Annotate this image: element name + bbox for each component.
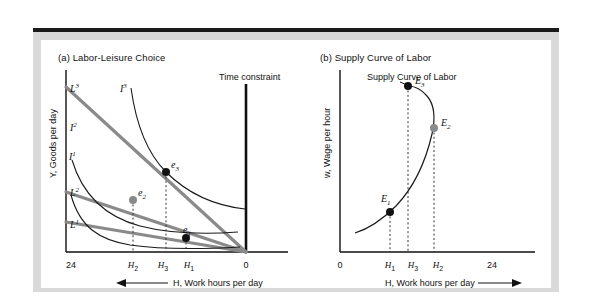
figure-root: (a) Labor-Leisure Choice (b) Supply Curv… xyxy=(0,0,592,304)
panel-b-xtick-24: 24 xyxy=(487,260,497,270)
label-indifference-i1: I1 xyxy=(68,150,76,162)
time-constraint-label: Time constraint xyxy=(219,72,281,82)
label-indifference-i3: I3 xyxy=(119,82,127,94)
equilibrium-point-E1 xyxy=(386,208,394,216)
label-e3: e3 xyxy=(171,159,179,173)
panel-b-xtick-h3: H3 xyxy=(407,260,419,272)
label-budget-l3: L3 xyxy=(69,82,80,94)
panel-a-xtick-24: 24 xyxy=(66,260,76,270)
figure-svg: L3 L2 L1 I3 I2 I1 e3 e2 e1 Time constrai… xyxy=(0,0,592,304)
label-E1: E1 xyxy=(380,193,391,207)
label-E2: E2 xyxy=(440,117,451,131)
panel-b-x-axis-label: H, Work hours per day xyxy=(385,278,475,288)
panel-a-xtick-h2: H2 xyxy=(127,260,139,272)
equilibrium-point-E3 xyxy=(404,82,412,90)
supply-curve-of-labor xyxy=(355,86,434,233)
panel-b-xtick-0: 0 xyxy=(337,260,342,270)
label-e2: e2 xyxy=(138,187,146,201)
label-budget-l1: L1 xyxy=(69,218,79,230)
equilibrium-point-E2 xyxy=(430,124,438,132)
equilibrium-point-e2 xyxy=(129,196,137,204)
supply-curve-annotation: Supply Curve of Labor xyxy=(367,72,457,82)
panel-a-group: L3 L2 L1 I3 I2 I1 e3 e2 e1 Time constrai… xyxy=(48,70,288,288)
panel-a-xtick-h3: H3 xyxy=(157,260,169,272)
panel-b-x-arrow-head xyxy=(512,279,522,287)
budget-line-l2 xyxy=(66,192,246,252)
panel-b-xtick-h2: H2 xyxy=(432,260,444,272)
panel-a-x-arrow-head xyxy=(116,279,126,287)
panel-a-xtick-h1: H1 xyxy=(183,260,195,272)
panel-b-xtick-h1: H1 xyxy=(384,260,396,272)
panel-b-group: E3 E2 E1 Supply Curve of Labor w, Wage p… xyxy=(322,70,535,288)
panel-a-y-axis-label: Y, Goods per day xyxy=(48,109,58,178)
equilibrium-point-e3 xyxy=(162,168,170,176)
indifference-curve-i3 xyxy=(131,88,245,209)
panel-a-xtick-0: 0 xyxy=(243,260,248,270)
label-indifference-i2: I2 xyxy=(69,121,77,133)
panel-b-y-axis-label: w, Wage per hour xyxy=(322,108,332,179)
panel-a-x-axis-label: H, Work hours per day xyxy=(173,278,263,288)
